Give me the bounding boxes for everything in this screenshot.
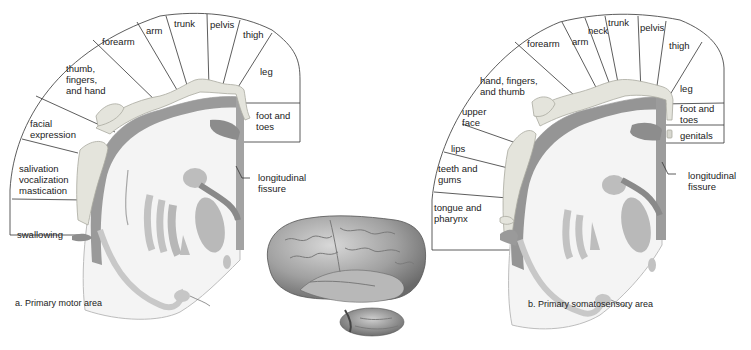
label-arm-b: arm (572, 36, 588, 47)
label-genitals: genitals (680, 130, 713, 141)
diagram-artwork (0, 0, 751, 350)
label-swallowing: swallowing (17, 229, 63, 240)
label-hand-fingers-thumb: hand, fingers, and thumb (480, 75, 538, 97)
label-forearm-b: forearm (527, 38, 560, 49)
label-foot-toes: foot and toes (256, 110, 290, 132)
caption-primary-motor-area: a. Primary motor area (15, 298, 102, 308)
label-pelvis-b: pelvis (640, 22, 664, 33)
label-forearm: forearm (102, 36, 135, 47)
caption-primary-somatosensory-area: b. Primary somatosensory area (528, 299, 653, 309)
label-facial-expression: facial expression (30, 118, 76, 140)
label-arm: arm (146, 25, 162, 36)
label-trunk-b: trunk (608, 17, 629, 28)
label-longitudinal-fissure-a: longitudinal fissure (258, 172, 306, 194)
label-neck: neck (588, 25, 608, 36)
homunculus-figure: swallowing salivation vocalization masti… (0, 0, 751, 350)
label-thigh-b: thigh (669, 40, 690, 51)
label-tongue-pharynx: tongue and pharynx (434, 202, 482, 224)
label-leg: leg (260, 66, 273, 77)
label-lips: lips (451, 143, 465, 154)
lateral-brain-illustration (267, 216, 425, 336)
label-longitudinal-fissure-b: longitudinal fissure (688, 170, 736, 192)
label-upper-face: upper face (462, 106, 486, 128)
label-thumb-fingers-hand: thumb, fingers, and hand (66, 63, 106, 96)
label-thigh: thigh (243, 29, 264, 40)
label-salivation: salivation vocalization mastication (19, 163, 69, 196)
label-trunk: trunk (174, 18, 195, 29)
label-teeth-gums: teeth and gums (438, 163, 478, 185)
label-pelvis: pelvis (210, 19, 234, 30)
label-leg-b: leg (680, 83, 693, 94)
label-foot-toes-b: foot and toes (680, 103, 714, 125)
